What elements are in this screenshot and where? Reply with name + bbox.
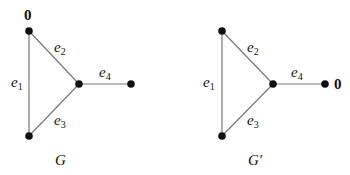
graph-caption-g-prime: G′	[248, 153, 262, 168]
edge-label-e4: e4	[99, 65, 111, 80]
edge-label-e3: e3	[54, 113, 66, 128]
edge-label-e1: e1	[11, 75, 23, 90]
edge-label-letter: e	[11, 74, 18, 90]
edge-label-subscript: 1	[18, 81, 23, 92]
edge-label-e2: e2	[54, 40, 66, 55]
edge-e3	[29, 84, 79, 136]
node-label-zero: 0	[334, 77, 342, 92]
edge-label-subscript: 3	[61, 119, 66, 130]
edge-label-e1: e1	[203, 75, 215, 90]
node-right	[321, 80, 329, 88]
edge-label-subscript: 2	[254, 46, 259, 57]
diagram-canvas	[0, 0, 350, 175]
node-bottom	[25, 132, 33, 140]
edge-label-letter: e	[54, 112, 61, 128]
edge-label-e3: e3	[247, 113, 259, 128]
edge-label-subscript: 2	[61, 46, 66, 57]
edge-label-subscript: 3	[254, 119, 259, 130]
edge-label-letter: e	[54, 39, 61, 55]
edge-label-e2: e2	[247, 40, 259, 55]
node-label-zero: 0	[24, 8, 32, 23]
edge-label-subscript: 1	[210, 81, 215, 92]
node-right	[127, 80, 135, 88]
edge-label-letter: e	[247, 39, 254, 55]
edge-label-e4: e4	[291, 65, 303, 80]
node-center	[75, 80, 83, 88]
node-top	[218, 27, 226, 35]
graph-g-prime	[218, 27, 329, 140]
node-bottom	[218, 132, 226, 140]
edge-label-subscript: 4	[298, 71, 303, 82]
node-top	[25, 27, 33, 35]
edge-label-letter: e	[247, 112, 254, 128]
graph-g	[25, 27, 135, 140]
edge-label-letter: e	[203, 74, 210, 90]
node-center	[269, 80, 277, 88]
edge-e3	[222, 84, 273, 136]
edge-label-subscript: 4	[106, 71, 111, 82]
graph-caption-g: G	[55, 153, 66, 168]
edge-label-letter: e	[99, 64, 106, 80]
edge-label-letter: e	[291, 64, 298, 80]
